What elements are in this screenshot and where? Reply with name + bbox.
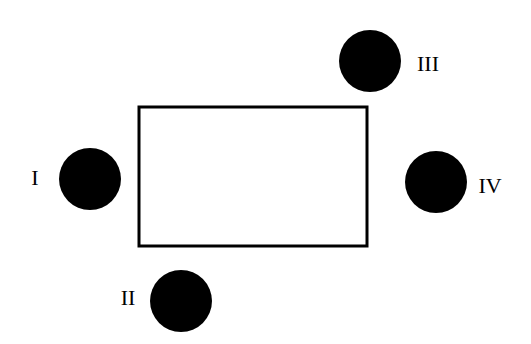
circle-iii [339,30,401,92]
label-iii: III [417,53,439,75]
diagram-canvas [0,0,531,344]
label-ii: II [121,287,136,309]
label-i: I [31,167,38,189]
circle-ii [150,270,212,332]
table-rectangle [139,107,367,246]
circle-iv [405,151,467,213]
circle-i [59,148,121,210]
label-iv: IV [478,175,501,197]
diagram: I II III IV [0,0,531,344]
